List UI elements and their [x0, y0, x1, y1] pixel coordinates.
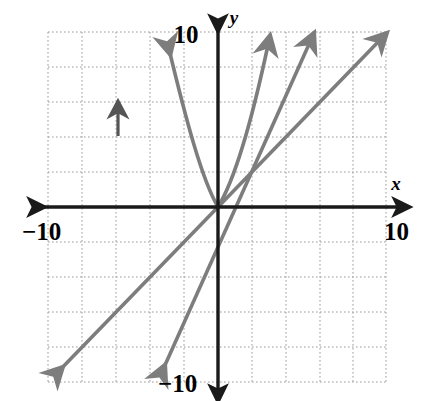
- x-min-tick-label: −10: [22, 218, 61, 245]
- y-min-tick-label: −10: [158, 370, 197, 397]
- y-max-tick-label: 10: [174, 21, 199, 48]
- y-axis-label: y: [228, 7, 239, 28]
- graph-canvas: x y −10 10 10 −10: [0, 0, 431, 401]
- coordinate-plane-figure: x y −10 10 10 −10: [0, 0, 431, 401]
- x-axis-label: x: [390, 173, 401, 194]
- x-max-tick-label: 10: [384, 218, 409, 245]
